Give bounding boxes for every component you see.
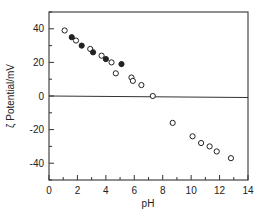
filled-data-point	[90, 50, 95, 55]
x-tick-label: 0	[46, 185, 52, 196]
x-axis-ticks: 02468101214	[46, 175, 254, 196]
x-tick-label: 4	[103, 185, 109, 196]
x-axis-title: pH	[142, 198, 155, 209]
chart-canvas: 02468101214 -40-2002040 pH ζ Potential/m…	[0, 0, 266, 215]
open-data-point	[62, 28, 67, 33]
open-data-point	[190, 134, 195, 139]
x-tick-label: 10	[186, 185, 198, 196]
open-data-point	[198, 140, 203, 145]
x-tick-label: 12	[214, 185, 226, 196]
open-data-point	[113, 71, 118, 76]
zeta-potential-chart: 02468101214 -40-2002040 pH ζ Potential/m…	[0, 0, 266, 215]
zero-reference-line	[49, 96, 248, 98]
y-tick-label: -40	[30, 158, 45, 169]
x-tick-label: 8	[160, 185, 166, 196]
y-tick-label: -20	[30, 124, 45, 135]
open-data-point	[139, 82, 144, 87]
filled-data-point	[69, 35, 74, 40]
open-data-point	[228, 156, 233, 161]
open-data-point	[170, 120, 175, 125]
x-tick-label: 14	[242, 185, 254, 196]
open-data-point	[207, 144, 212, 149]
y-tick-label: 40	[33, 23, 45, 34]
open-data-point	[109, 60, 114, 65]
y-tick-label: 20	[33, 57, 45, 68]
zero-line	[49, 96, 248, 98]
x-tick-label: 2	[75, 185, 81, 196]
y-axis-ticks: -40-2002040	[30, 12, 54, 180]
data-points	[62, 28, 234, 161]
open-data-point	[214, 149, 219, 154]
x-tick-label: 6	[132, 185, 138, 196]
filled-data-point	[103, 56, 108, 61]
filled-data-point	[79, 43, 84, 48]
open-data-point	[150, 93, 155, 98]
y-axis-title: ζ Potential/mV	[5, 64, 17, 128]
filled-data-point	[119, 61, 124, 66]
open-data-point	[130, 78, 135, 83]
y-tick-label: 0	[38, 91, 44, 102]
